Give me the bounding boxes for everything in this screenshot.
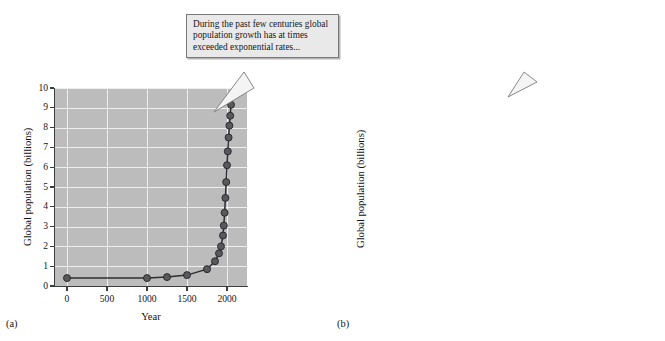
callout-panel-a: During the past few centuries global pop…	[186, 14, 339, 58]
figure-root: During the past few centuries global pop…	[0, 0, 665, 341]
panel-b: Global population (billions) Annual grow…	[332, 0, 665, 341]
callout-leader-b	[332, 0, 665, 341]
panel-a: During the past few centuries global pop…	[0, 0, 332, 341]
